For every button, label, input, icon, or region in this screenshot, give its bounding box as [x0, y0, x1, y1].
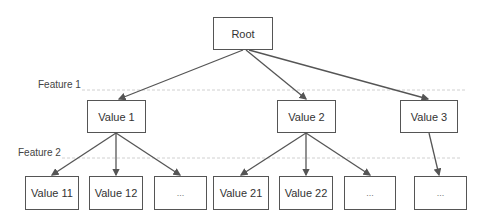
- value-11-node: Value 11: [25, 176, 79, 210]
- value-12-node: Value 12: [89, 176, 143, 210]
- value-1x-more-node: ...: [154, 176, 207, 210]
- value-2x-more-node: ...: [344, 176, 396, 210]
- feature-1-label: Feature 1: [38, 79, 81, 90]
- value-21-node: Value 21: [213, 176, 269, 210]
- value-3-node: Value 3: [400, 100, 458, 133]
- value-2-node: Value 2: [277, 100, 336, 133]
- value-22-node: Value 22: [279, 176, 333, 210]
- value-1-node: Value 1: [87, 100, 146, 133]
- feature-2-label: Feature 2: [18, 147, 61, 158]
- value-3x-more-node: ...: [414, 176, 467, 210]
- root-node: Root: [213, 17, 273, 50]
